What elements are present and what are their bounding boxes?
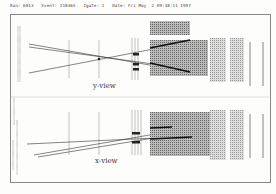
y-view-label: y-view: [93, 82, 116, 90]
event-display-canvas: [0, 0, 276, 194]
x-view-label: x-view: [95, 157, 118, 165]
upstream-detectors: [13, 26, 20, 175]
vertex-planes: [69, 38, 141, 155]
y-view-downstream-detector: [150, 21, 263, 86]
x-view-downstream-detector: [150, 110, 263, 160]
